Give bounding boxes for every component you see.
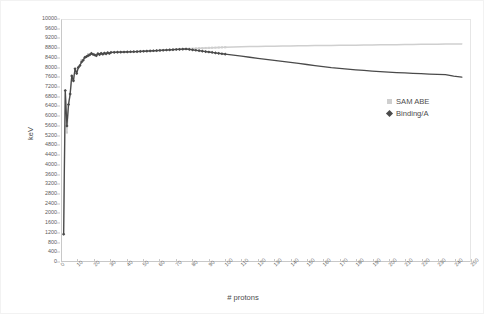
y-axis-tick: 9200 xyxy=(45,36,57,41)
y-axis-tick: 4400 xyxy=(45,152,57,157)
diamond-marker-icon xyxy=(386,110,393,117)
legend-item-sam-abe[interactable]: SAM ABE xyxy=(387,97,429,106)
square-marker-icon xyxy=(387,99,392,104)
y-axis-tick-mark xyxy=(57,48,60,49)
y-axis-tick: 8000 xyxy=(45,65,57,70)
x-axis-tick: 130 xyxy=(273,258,283,268)
y-axis-tick: 9600 xyxy=(45,26,57,31)
y-axis-tick-mark xyxy=(57,232,60,233)
y-axis-tick: 5200 xyxy=(45,133,57,138)
y-axis-tick: 1200 xyxy=(45,230,57,235)
y-axis-tick-mark xyxy=(57,242,60,243)
y-axis-tick: 8800 xyxy=(45,45,57,50)
x-axis-title: # protons xyxy=(1,293,484,302)
y-axis-tick-mark xyxy=(57,87,60,88)
y-axis-tick: 1600 xyxy=(45,220,57,225)
y-axis-tick-mark xyxy=(57,252,60,253)
y-axis-tick-mark xyxy=(57,145,60,146)
y-axis-tick-mark xyxy=(57,96,60,97)
y-axis-tick: 6400 xyxy=(45,104,57,109)
x-axis-tick: 100 xyxy=(224,258,234,268)
y-axis-tick: 7600 xyxy=(45,75,57,80)
y-axis-tick-mark xyxy=(57,38,60,39)
chart-legend: SAM ABE Binding/A xyxy=(387,97,429,118)
y-axis-tick: 6800 xyxy=(45,94,57,99)
x-axis-tick: 0 xyxy=(60,262,66,268)
y-axis-tick-labels: 0400800120016002000240028003200360040004… xyxy=(1,19,61,262)
y-axis-tick: 400 xyxy=(48,250,57,255)
y-axis-tick-mark xyxy=(57,106,60,107)
x-axis-tick: 40 xyxy=(126,260,134,268)
series-line-binding-a xyxy=(64,49,462,234)
x-axis-tick: 180 xyxy=(355,258,365,268)
y-axis-tick-mark xyxy=(57,174,60,175)
y-axis-tick: 8400 xyxy=(45,55,57,60)
y-axis-tick-mark xyxy=(57,19,60,20)
y-axis-tick: 2000 xyxy=(45,211,57,216)
series-lines xyxy=(62,20,470,261)
y-axis-tick-mark xyxy=(57,203,60,204)
y-axis-tick-mark xyxy=(57,193,60,194)
y-axis-tick: 4800 xyxy=(45,143,57,148)
x-axis-tick: 200 xyxy=(388,258,398,268)
y-axis-tick: 2400 xyxy=(45,201,57,206)
y-axis-tick: 5600 xyxy=(45,123,57,128)
x-axis-tick: 110 xyxy=(240,258,250,268)
y-axis-tick: 7200 xyxy=(45,84,57,89)
chart-container: keV 040080012001600200024002800320036004… xyxy=(0,0,484,314)
x-axis-tick-labels: 0102030405060708090100110120130140150160… xyxy=(61,262,472,292)
y-axis-tick-mark xyxy=(57,184,60,185)
y-axis-tick-mark xyxy=(57,135,60,136)
x-axis-tick: 250 xyxy=(470,258,480,268)
y-axis-tick-mark xyxy=(57,116,60,117)
legend-label-sam-abe: SAM ABE xyxy=(396,97,429,106)
x-axis-tick: 230 xyxy=(437,258,447,268)
y-axis-tick: 3200 xyxy=(45,182,57,187)
legend-item-binding-a[interactable]: Binding/A xyxy=(387,109,429,118)
y-axis-tick: 3600 xyxy=(45,172,57,177)
legend-label-binding-a: Binding/A xyxy=(396,109,429,118)
y-axis-tick-mark xyxy=(57,57,60,58)
series-markers-1 xyxy=(62,47,227,235)
y-axis-tick-mark xyxy=(57,164,60,165)
x-axis-tick: 150 xyxy=(306,258,316,268)
y-axis-tick-mark xyxy=(57,223,60,224)
y-axis-tick-mark xyxy=(57,77,60,78)
y-axis-tick: 10000 xyxy=(42,16,57,21)
y-axis-tick: 2800 xyxy=(45,191,57,196)
y-axis-tick-mark xyxy=(57,213,60,214)
y-axis-tick: 800 xyxy=(48,240,57,245)
y-axis-tick: 6000 xyxy=(45,113,57,118)
x-axis-tick: 90 xyxy=(208,260,216,268)
plot-area xyxy=(61,19,471,262)
y-axis-tick-mark xyxy=(57,67,60,68)
series-markers-0 xyxy=(63,46,227,235)
y-axis-tick-mark xyxy=(57,125,60,126)
y-axis-tick: 4000 xyxy=(45,162,57,167)
y-axis-tick-mark xyxy=(57,155,60,156)
y-axis-tick-mark xyxy=(57,28,60,29)
